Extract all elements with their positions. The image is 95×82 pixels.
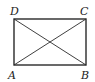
rectangle-diagram: D C A B [0, 0, 95, 82]
vertex-label-c: C [80, 5, 89, 18]
vertex-label-d: D [9, 5, 19, 18]
vertex-label-a: A [7, 69, 16, 82]
vertex-label-b: B [80, 69, 89, 82]
